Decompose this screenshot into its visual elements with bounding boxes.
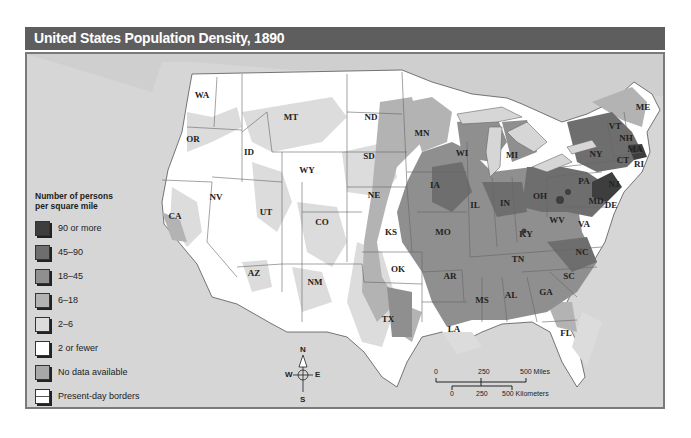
state-label-co: CO	[315, 217, 329, 227]
scale-km-0: 0	[450, 390, 454, 397]
state-label-vt: VT	[609, 121, 622, 131]
legend-swatch	[35, 293, 50, 308]
state-label-il: IL	[470, 200, 480, 210]
state-label-ga: GA	[539, 287, 553, 297]
state-label-al: AL	[505, 290, 518, 300]
legend-swatch	[35, 389, 50, 404]
state-label-ia: IA	[430, 180, 440, 190]
state-label-ne: NE	[368, 190, 381, 200]
state-label-wy: WY	[299, 165, 315, 175]
state-label-nm: NM	[308, 277, 323, 287]
state-label-ks: KS	[385, 227, 397, 237]
state-label-wa: WA	[195, 90, 210, 100]
scale-bar: 0 250 500 Miles 0 250 500 Kilometers	[430, 368, 590, 398]
legend-item-present-day-borders: Present-day borders	[35, 384, 165, 408]
map-title: United States Population Density, 1890	[25, 27, 665, 50]
legend-item-2-6: 2–6	[35, 312, 165, 336]
state-label-nc: NC	[576, 247, 589, 257]
state-label-ar: AR	[444, 271, 457, 281]
state-label-nv: NV	[210, 192, 223, 202]
scale-km-250: 250	[476, 390, 488, 397]
state-label-mn: MN	[415, 128, 430, 138]
state-label-tx: TX	[382, 314, 395, 324]
state-label-ca: CA	[169, 211, 182, 221]
state-label-ut: UT	[260, 207, 273, 217]
state-label-wv: WV	[549, 215, 565, 225]
compass-east-label: E	[315, 370, 320, 379]
legend-title: Number of persons per square mile	[35, 191, 165, 211]
state-label-mo: MO	[435, 227, 451, 237]
legend-item-no-data: No data available	[35, 360, 165, 384]
scale-km-500: 500 Kilometers	[502, 390, 549, 397]
state-label-nh: NH	[619, 133, 633, 143]
state-label-oh: OH	[533, 191, 547, 201]
state-label-fl: FL	[560, 328, 572, 338]
legend-swatch	[35, 317, 50, 332]
legend-label: 45–90	[58, 247, 83, 257]
legend-swatch	[35, 245, 50, 260]
state-label-de: DE	[605, 200, 618, 210]
legend-label: No data available	[58, 367, 128, 377]
state-label-wi: WI	[456, 148, 469, 158]
state-label-nd: ND	[365, 112, 378, 122]
state-label-mi: MI	[506, 150, 518, 160]
state-label-nj: NJ	[609, 179, 620, 189]
state-label-az: AZ	[248, 268, 261, 278]
state-label-la: LA	[448, 324, 461, 334]
state-label-tn: TN	[512, 254, 525, 264]
state-label-va: VA	[578, 219, 590, 229]
legend-swatch	[35, 269, 50, 284]
state-label-id: ID	[244, 147, 254, 157]
state-label-pa: PA	[578, 176, 589, 186]
compass-south-label: S	[300, 395, 305, 404]
state-label-ma: MA	[628, 144, 643, 154]
state-label-sd: SD	[363, 151, 375, 161]
legend-swatch	[35, 365, 50, 380]
state-label-or: OR	[186, 134, 200, 144]
legend-item-2-or-fewer: 2 or fewer	[35, 336, 165, 360]
state-label-ms: MS	[475, 295, 489, 305]
state-label-in: IN	[500, 198, 510, 208]
state-label-mt: MT	[284, 112, 299, 122]
legend-label: Present-day borders	[58, 391, 140, 401]
legend-title-line1: Number of persons	[35, 191, 165, 201]
state-label-ri: RI	[634, 159, 644, 169]
legend-label: 18–45	[58, 271, 83, 281]
state-label-ny: NY	[590, 149, 603, 159]
legend-item-45-90: 45–90	[35, 240, 165, 264]
legend-swatch	[35, 221, 50, 236]
state-label-sc: SC	[563, 271, 575, 281]
map-legend: Number of persons per square mile 90 or …	[35, 191, 165, 408]
compass-west-label: W	[285, 370, 293, 379]
state-label-ok: OK	[391, 264, 405, 274]
legend-swatch	[35, 341, 50, 356]
compass-rose: N W E S	[283, 345, 323, 405]
legend-item-18-45: 18–45	[35, 264, 165, 288]
state-label-md: MD	[589, 196, 604, 206]
legend-label: 90 or more	[58, 223, 102, 233]
state-label-me: ME	[636, 102, 651, 112]
legend-label: 2–6	[58, 319, 73, 329]
legend-item-6-18: 6–18	[35, 288, 165, 312]
state-label-ct: CT	[617, 155, 630, 165]
legend-title-line2: per square mile	[35, 201, 165, 211]
legend-label: 6–18	[58, 295, 78, 305]
legend-item-90-or-more: 90 or more	[35, 216, 165, 240]
legend-label: 2 or fewer	[58, 343, 98, 353]
state-label-ky: KY	[519, 229, 533, 239]
